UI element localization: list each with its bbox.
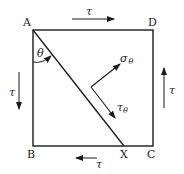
- element-square: [33, 30, 153, 146]
- top-shear-label: τ: [86, 5, 93, 18]
- stress-diagram: A D B X C θ τ τ τ τ σθ τθ: [0, 0, 184, 174]
- point-label-a: A: [22, 16, 32, 29]
- plane-shear-arrow: [91, 87, 115, 118]
- point-label-c: C: [147, 148, 155, 161]
- point-label-x: X: [120, 148, 128, 161]
- theta-label: θ: [37, 47, 44, 60]
- plane-shear-label: τθ: [117, 101, 128, 115]
- normal-stress-label: σθ: [120, 52, 134, 66]
- inclined-plane-line: [33, 30, 124, 146]
- normal-stress-arrow: [91, 64, 120, 87]
- point-label-b: B: [27, 148, 35, 161]
- bottom-shear-label: τ: [96, 158, 103, 171]
- left-shear-label: τ: [9, 86, 16, 99]
- point-label-d: D: [148, 16, 157, 29]
- right-shear-label: τ: [169, 84, 176, 97]
